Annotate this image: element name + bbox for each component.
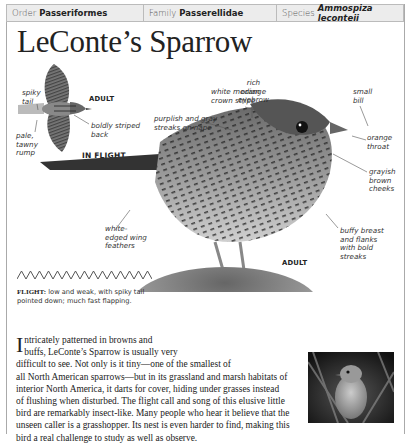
description-line: interior North America, it darts for cov… bbox=[16, 383, 306, 395]
flight-label: FLIGHT: bbox=[17, 288, 46, 296]
drop-cap: I bbox=[16, 335, 23, 354]
flight-description: FLIGHT: low and weak, with spiky tail po… bbox=[17, 288, 167, 306]
description-line: ntricately patterned in browns and bbox=[16, 334, 306, 346]
description-line: all North American sparrows—but in its g… bbox=[16, 371, 306, 383]
leader-lines bbox=[0, 0, 407, 300]
description-line: unseen caller is a grasshopper. Its nest… bbox=[16, 419, 306, 431]
species-description: I ntricately patterned in browns and buf… bbox=[16, 334, 306, 444]
description-line: bird are remarkably insect-like. Many pe… bbox=[16, 407, 306, 419]
zigzag-flight-pattern-icon bbox=[17, 270, 152, 280]
description-line: difficult to see. Not only is it tiny—on… bbox=[16, 358, 306, 370]
description-line: of flushing when disturbed. The flight c… bbox=[16, 395, 306, 407]
description-line: buffs, LeConte’s Sparrow is usually very bbox=[16, 346, 306, 358]
description-line: bird a real challenge to study as well a… bbox=[16, 432, 306, 444]
sparrow-photo bbox=[308, 352, 394, 423]
